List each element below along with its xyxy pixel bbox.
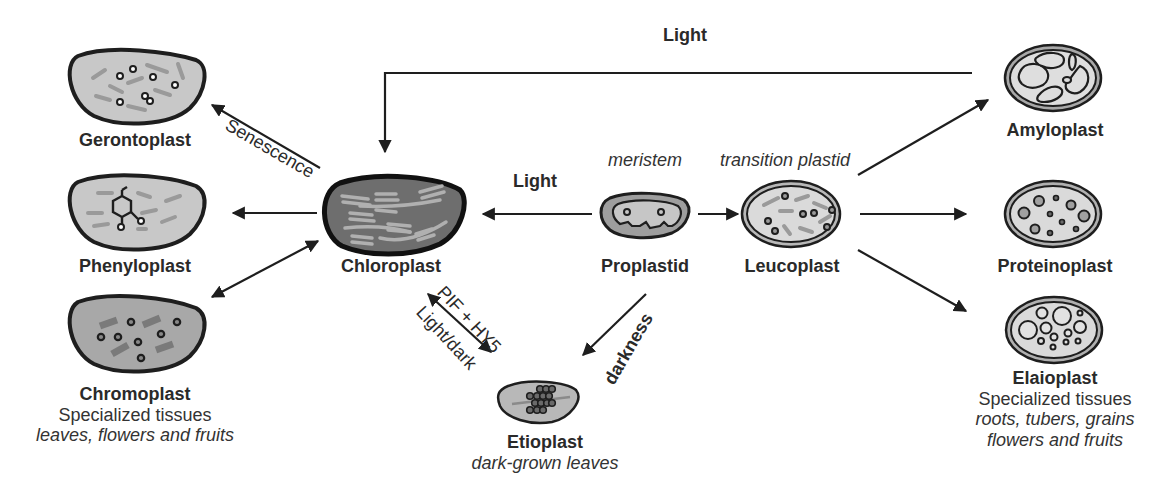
elaioplast-label: Elaioplast (950, 368, 1160, 389)
etioplast-label: Etioplast (445, 432, 645, 453)
gerontoplast-icon (70, 50, 205, 124)
leucoplast-label: Leucoplast (732, 256, 852, 277)
chloroplast-label: Chloroplast (316, 256, 466, 277)
proplastid-meristem-label: meristem (590, 150, 700, 171)
etioplast-icon (498, 382, 578, 423)
chromoplast-label: Chromoplast (10, 384, 260, 405)
elaioplast-tissue-label: Specialized tissues (950, 389, 1160, 410)
amyloplast-node: Amyloplast (985, 120, 1125, 141)
etioplast-node: Etioplast dark-grown leaves (445, 432, 645, 473)
arrow-chloroplast-chromoplast (212, 241, 318, 297)
phenyloplast-icon (70, 175, 205, 249)
phenyloplast-label: Phenyloplast (60, 256, 210, 277)
chromoplast-organs-label: leaves, flowers and fruits (10, 425, 260, 446)
elaioplast-organs-label-1: roots, tubers, grains (950, 409, 1160, 430)
gerontoplast-label: Gerontoplast (60, 130, 210, 151)
elaioplast-icon (1006, 297, 1102, 363)
chloroplast-node: Chloroplast (316, 256, 466, 277)
leucoplast-icon (742, 181, 840, 247)
proteinoplast-icon (1005, 181, 1101, 247)
amyloplast-label: Amyloplast (985, 120, 1125, 141)
amyloplast-icon (1005, 45, 1101, 111)
chromoplast-node: Chromoplast Specialized tissues leaves, … (10, 384, 260, 446)
elaioplast-node: Elaioplast Specialized tissues roots, tu… (950, 368, 1160, 451)
proteinoplast-node: Proteinoplast (980, 256, 1130, 277)
arrow-leucoplast-to-elaioplast (858, 250, 966, 311)
phenyloplast-node: Phenyloplast (60, 256, 210, 277)
proplastid-label: Proplastid (585, 256, 705, 277)
chromoplast-tissue-label: Specialized tissues (10, 405, 260, 426)
chromoplast-icon (70, 296, 205, 372)
edge-label-top-light: Light (663, 25, 707, 46)
leucoplast-transition-label: transition plastid (705, 150, 865, 171)
arrow-amyloplast-to-chloroplast (385, 73, 972, 152)
elaioplast-organs-label-2: flowers and fruits (950, 430, 1160, 451)
proplastid-node: Proplastid (585, 256, 705, 277)
proplastid-icon (601, 193, 689, 237)
gerontoplast-node: Gerontoplast (60, 130, 210, 151)
etioplast-context-label: dark-grown leaves (445, 453, 645, 474)
edge-label-proplastid-light: Light (513, 171, 557, 192)
chloroplast-icon (324, 176, 464, 254)
proteinoplast-label: Proteinoplast (980, 256, 1130, 277)
arrow-leucoplast-to-amyloplast (858, 100, 988, 175)
leucoplast-node: Leucoplast (732, 256, 852, 277)
